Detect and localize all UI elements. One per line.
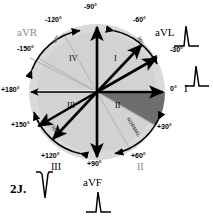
ecg-trace-i <box>185 66 209 86</box>
lead-label-i: I <box>184 83 188 94</box>
quadrant-label-III: III <box>67 102 75 110</box>
ecg-trace-avl <box>174 26 199 46</box>
quadrant-label-IV: IV <box>69 55 77 63</box>
lead-label-avr: aVR <box>17 27 37 38</box>
quadrant-label-II: II <box>115 102 120 110</box>
lead-label-ii: II <box>137 162 144 172</box>
degree-label-plus-150: +150° <box>11 121 30 128</box>
degree-label-plus-30: +30° <box>157 123 172 130</box>
degree-label-plus-60: +60° <box>131 152 146 159</box>
degree-label-minus-120: -120° <box>45 16 62 23</box>
degree-label-plus-90: +90° <box>87 160 102 167</box>
degree-label-minus-150: -150° <box>17 45 34 52</box>
degree-label-plus-120: +120° <box>41 152 60 159</box>
degree-label-minus-30: -30° <box>170 46 183 53</box>
lead-label-avl: aVL <box>155 27 175 38</box>
ecg-trace-iii <box>36 172 53 198</box>
degree-label-minus-90: -90° <box>84 3 97 10</box>
degree-label-plus-180: +180° <box>1 86 20 93</box>
lead-label-avf: aVF <box>83 177 102 188</box>
degree-label-minus-60: -60° <box>133 16 146 23</box>
figure-number: 2J. <box>10 182 26 195</box>
figure-canvas: -90° -60° -30° 0° +30° +60° +90° +120° +… <box>0 0 213 222</box>
degree-label-zero: 0° <box>170 85 177 92</box>
quadrant-label-I: I <box>114 55 117 63</box>
ecg-trace-avf <box>86 192 111 212</box>
lead-label-iii: III <box>51 162 61 172</box>
